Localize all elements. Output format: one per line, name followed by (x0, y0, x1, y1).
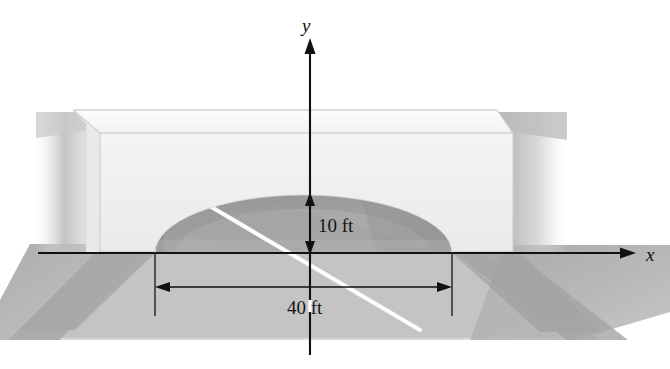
y-axis-label: y (300, 15, 311, 36)
diagram-svg: 10 ft 40 ft y x (0, 0, 670, 369)
height-dimension-label: 10 ft (318, 215, 354, 236)
bridge-top-face (73, 110, 513, 133)
width-dimension-label: 40 ft (287, 297, 323, 318)
figure-canvas: 10 ft 40 ft y x (0, 0, 670, 369)
x-axis-label: x (645, 244, 655, 265)
arch-ground-plane (155, 240, 452, 253)
